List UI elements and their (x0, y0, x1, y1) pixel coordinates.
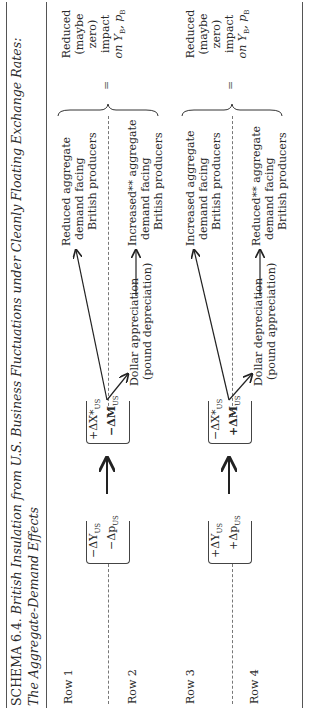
book-page: SCHEMA 6.4. British Insulation from U.S.… (0, 0, 312, 716)
diagram-arrows (0, 0, 312, 716)
arrow-icon (194, 250, 229, 400)
brace-icon (58, 104, 158, 116)
arrow-icon (229, 374, 252, 400)
bottom-rule (302, 2, 303, 708)
arrow-icon (107, 374, 128, 400)
brace-icon (182, 104, 282, 116)
arrow-icon (76, 250, 107, 400)
